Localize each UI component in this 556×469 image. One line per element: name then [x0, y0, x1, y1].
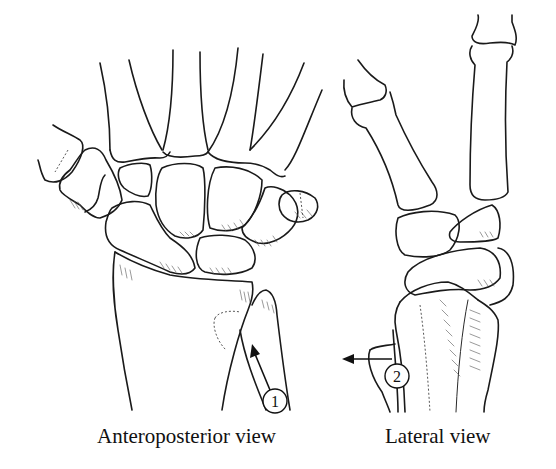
metacarpals [100, 48, 322, 177]
arrow-1-line [255, 354, 270, 390]
lateral-caption: Lateral view [385, 426, 491, 447]
lateral-phalanx [470, 15, 516, 200]
lateral-view-drawing: 2 [342, 15, 516, 412]
wrist-anatomy-figure: 1 [0, 0, 556, 469]
carpal-bones [106, 163, 318, 274]
marker-1-label: 1 [271, 393, 279, 410]
marker-2-label: 2 [393, 368, 401, 385]
radius-bone [113, 252, 252, 410]
arrow-1-head-icon [250, 344, 260, 358]
anteroposterior-caption: Anteroposterior view [97, 426, 276, 447]
anteroposterior-view-drawing: 1 [38, 48, 322, 413]
lateral-thumb-metacarpal [344, 60, 437, 210]
lateral-radius [393, 282, 498, 412]
arrow-2-head-icon [342, 354, 354, 364]
lateral-carpals [396, 205, 513, 305]
wrist-diagram-canvas: 1 [0, 0, 556, 469]
